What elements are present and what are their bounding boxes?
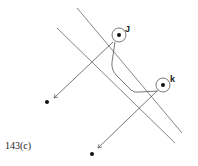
node-label-k: k — [170, 74, 175, 84]
node-label-j: J — [125, 24, 130, 34]
curved-connector — [112, 42, 158, 92]
node-j — [112, 28, 126, 42]
arrow-from-k — [98, 91, 157, 148]
arrow-from-j — [54, 42, 113, 98]
endpoint-dot-1 — [45, 100, 49, 104]
endpoint-dot-2 — [90, 152, 94, 156]
node-k — [156, 78, 170, 92]
figure-label: 143(c) — [5, 140, 31, 151]
